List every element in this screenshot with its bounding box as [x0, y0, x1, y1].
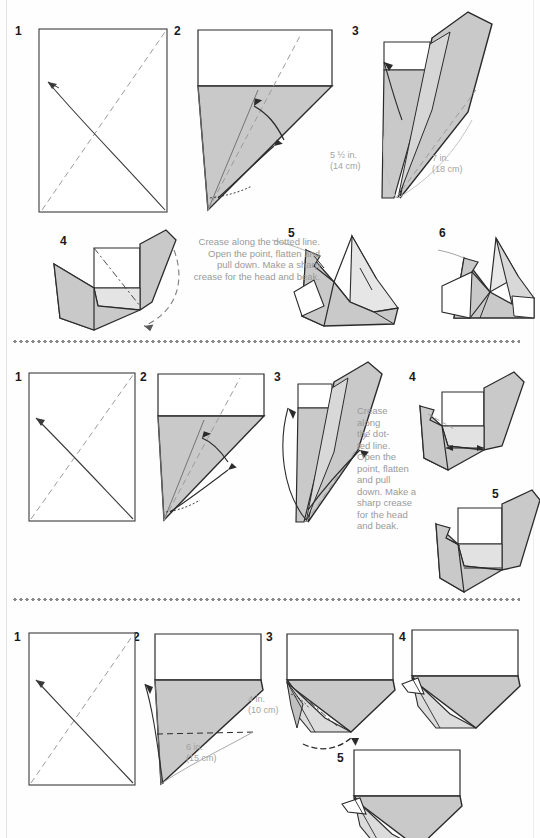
section-2: 1 2 3 4 5 [0, 350, 540, 610]
dimension-label-7in: 7 in. (18 cm) [432, 153, 484, 174]
caption-line-9: sharp crease [357, 497, 419, 509]
caption-line-2: along [357, 417, 419, 429]
step-number-s1-3: 3 [352, 24, 358, 38]
caption-line-8: down. Make a [357, 486, 419, 498]
step-number-s2-1: 1 [15, 370, 21, 384]
caption-s1-step5: Crease along the dotted line. Open the p… [192, 236, 320, 282]
dimension-line1: 6 in. [186, 742, 242, 753]
diagram-page: 1 2 3 4 5 6 [0, 0, 540, 838]
section-1: 1 2 3 4 5 6 [0, 0, 540, 345]
section-3: 1 2 3 4 5 [0, 608, 540, 838]
figure-s1-step2 [196, 28, 351, 218]
figure-s3-step4 [410, 628, 540, 763]
figure-s2-step4 [422, 370, 540, 480]
figure-s1-step6 [434, 232, 540, 332]
caption-line-10: for the head [357, 509, 419, 521]
dimension-line2: (15 cm) [186, 753, 242, 764]
step-number-s3-1: 1 [14, 630, 20, 644]
caption-line-7: and pull [357, 474, 419, 486]
dimension-line1: 7 in. [432, 153, 484, 164]
figure-s1-step4 [40, 226, 200, 336]
dimension-label-6in-text: 6 in. (15 cm) [186, 742, 242, 763]
figure-s2-step5 [440, 490, 540, 610]
caption-line-1: Crease [357, 405, 419, 417]
figure-s2-step1 [28, 372, 143, 527]
dimension-line1: 4 in. [248, 694, 296, 705]
dimension-line2: (10 cm) [248, 705, 296, 716]
step-number-s1-1: 1 [15, 24, 21, 38]
caption-line-4: ted line. [357, 440, 419, 452]
section-divider-2 [12, 598, 520, 601]
section-divider-1 [12, 340, 520, 343]
caption-s2-step4: Crease along the dot- ted line. Open the… [357, 405, 419, 532]
caption-line-3: the dot- [357, 428, 419, 440]
figure-s2-step2 [156, 372, 281, 527]
figure-s1-step1 [38, 28, 173, 218]
dimension-line1: 5 ½ in. [330, 150, 382, 161]
caption-line-11: and beak. [357, 520, 419, 532]
caption-line-6: point, flatten [357, 463, 419, 475]
step-number-s1-2: 2 [174, 24, 180, 38]
figure-s3-step5 [352, 748, 492, 838]
dimension-line2: (14 cm) [330, 161, 382, 172]
dimension-label-4in-text: 4 in. (10 cm) [248, 694, 296, 715]
caption-line-5: Open the [357, 451, 419, 463]
figure-s3-step1 [28, 632, 143, 792]
dimension-label-5half: 5 ½ in. (14 cm) [330, 150, 382, 171]
figure-s1-step3 [372, 10, 532, 210]
dimension-line2: (18 cm) [432, 164, 484, 175]
